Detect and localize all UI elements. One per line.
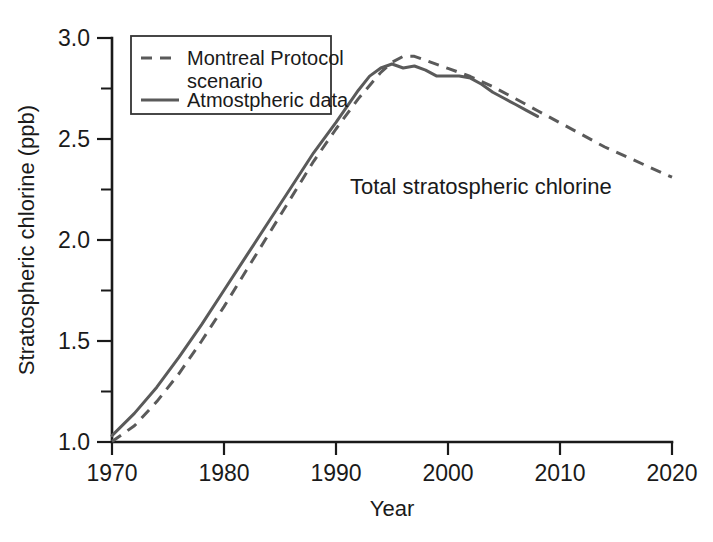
chart-svg: 1970 1980 1990 2000 2010 2020 1.0 1.5 2.… bbox=[0, 0, 713, 542]
y-axis-title: Stratospheric chlorine (ppb) bbox=[14, 105, 39, 375]
y-tick-label: 3.0 bbox=[58, 25, 90, 51]
legend-label-montreal-line1: Montreal Protocol bbox=[187, 47, 344, 69]
x-axis-ticks bbox=[112, 442, 672, 455]
chart-legend: Montreal Protocol scenario Atmostpheric … bbox=[131, 36, 349, 114]
chart-figure: 1970 1980 1990 2000 2010 2020 1.0 1.5 2.… bbox=[0, 0, 713, 542]
y-tick-labels: 1.0 1.5 2.0 2.5 3.0 bbox=[58, 25, 90, 455]
x-tick-label: 2010 bbox=[534, 460, 585, 486]
y-tick-label: 1.5 bbox=[58, 328, 90, 354]
y-tick-label: 1.0 bbox=[58, 429, 90, 455]
series-atmostpheric-data bbox=[112, 64, 538, 436]
x-axis-title: Year bbox=[370, 496, 414, 521]
y-tick-label: 2.5 bbox=[58, 126, 90, 152]
x-tick-label: 2020 bbox=[646, 460, 697, 486]
chart-annotation: Total stratospheric chlorine bbox=[350, 174, 612, 199]
x-tick-label: 1990 bbox=[310, 460, 361, 486]
legend-label-atmostpheric: Atmostpheric data bbox=[187, 89, 349, 111]
x-tick-label: 1970 bbox=[86, 460, 137, 486]
x-tick-labels: 1970 1980 1990 2000 2010 2020 bbox=[86, 460, 697, 486]
y-tick-label: 2.0 bbox=[58, 227, 90, 253]
x-tick-label: 1980 bbox=[198, 460, 249, 486]
x-tick-label: 2000 bbox=[422, 460, 473, 486]
y-axis-ticks bbox=[97, 38, 112, 442]
